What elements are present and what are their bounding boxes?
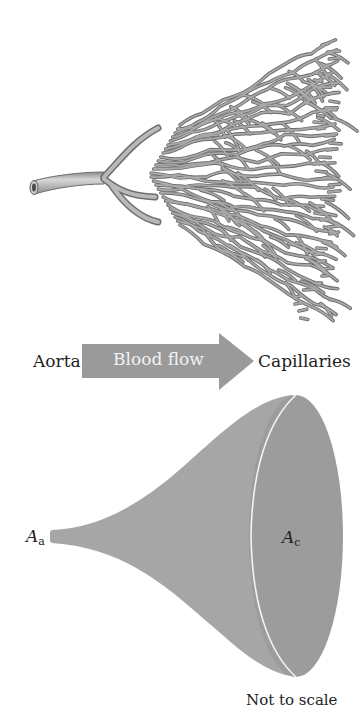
aorta-label: Aorta bbox=[33, 351, 81, 371]
aorta-area-symbol: A bbox=[26, 526, 38, 546]
blood-flow-label: Blood flow bbox=[113, 349, 204, 369]
aorta-end bbox=[50, 530, 56, 543]
capillary-area-label: Ac bbox=[282, 527, 300, 549]
capillary-area-subscript: c bbox=[294, 536, 300, 549]
aorta-area-subscript: a bbox=[38, 535, 45, 548]
figure: Aorta Blood flow Capillaries Aa Ac Not t… bbox=[0, 0, 363, 726]
not-to-scale-note: Not to scale bbox=[246, 691, 338, 709]
capillaries-label: Capillaries bbox=[258, 351, 351, 371]
capillary-area-symbol: A bbox=[282, 527, 294, 547]
aorta-area-label: Aa bbox=[26, 526, 45, 548]
